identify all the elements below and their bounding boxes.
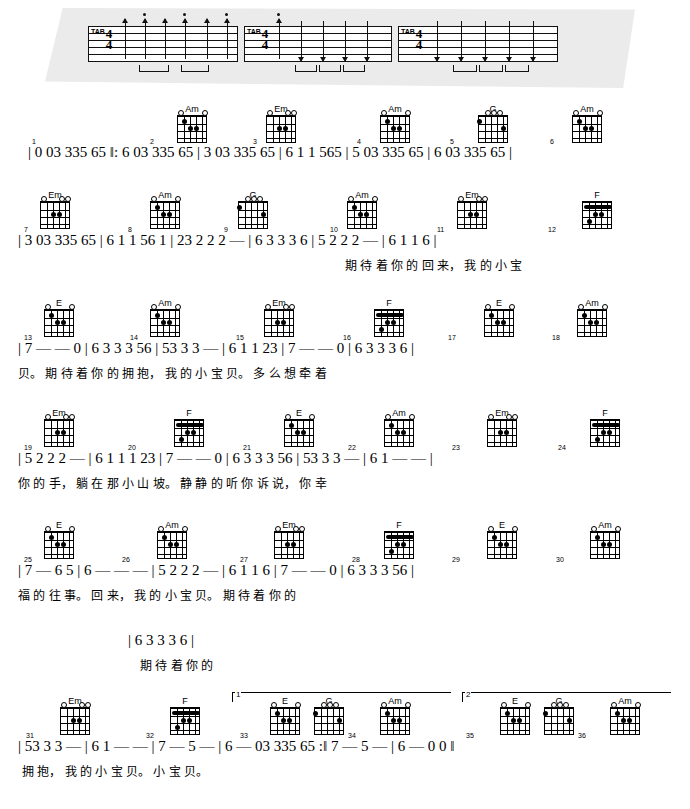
measure-number: 17 <box>448 334 456 341</box>
chord-diagram: F <box>580 190 614 229</box>
chord-diagram: Am <box>345 190 379 229</box>
chord-name: F <box>372 298 406 309</box>
sheet-music-page: TAB 44 TAB 44 TAB 44 <box>0 0 690 809</box>
measure-number: 24 <box>558 444 566 451</box>
lyrics-row: 福 的 往 事。 回 来， 我 的 小 宝 贝。 期 待 着 你 的 <box>18 586 296 603</box>
lyrics-row: 期 待 着 你 的 回 来， 我 的 小 宝 <box>345 256 522 273</box>
chord-name: F <box>382 520 416 531</box>
measure-number: 11 <box>437 226 444 233</box>
notation-row: | 7 — — 0 | 6 3 3 3 56 | 53 3 3 — | 6 1 … <box>18 340 414 357</box>
time-signature-2: 44 <box>259 28 271 50</box>
chord-diagram: F <box>382 520 416 559</box>
chord-diagram: F <box>588 408 622 447</box>
measure-number: 6 <box>550 138 554 145</box>
tab-label-3: TAB <box>401 28 413 60</box>
chord-diagram: F <box>168 696 202 735</box>
chord-diagram: Am <box>155 520 189 559</box>
chord-diagram: Am <box>175 104 209 143</box>
notation-row: | 5 2 2 2 — | 6 1 1 1 23 | 7 — — 0 | 6 3… <box>18 450 433 467</box>
staff-line-3: E Am Em F <box>0 298 690 390</box>
chord-diagram: E <box>42 520 76 559</box>
chord-diagram: Am <box>148 298 182 337</box>
chord-diagram: Am <box>148 190 182 229</box>
chord-diagram: F <box>172 408 206 447</box>
measure-number: 23 <box>452 444 460 451</box>
chord-diagram: Am <box>570 104 604 143</box>
chord-name: F <box>168 696 202 707</box>
chord-diagram: G <box>312 696 346 735</box>
chord-diagram: Em <box>58 696 92 735</box>
chord-diagram: E <box>42 298 76 337</box>
chord-diagram: Am <box>608 696 642 735</box>
lyrics-row: 贝。 期 待 着 你 的 拥 抱， 我 的 小 宝 贝。 多 么 想 牵 着 <box>18 364 327 381</box>
chord-diagram: E <box>282 408 316 447</box>
chord-diagram: Em <box>262 298 296 337</box>
time-signature-3: 44 <box>413 28 425 50</box>
chord-diagram: Am <box>382 408 416 447</box>
chord-name: F <box>172 408 206 419</box>
chord-diagram: Am <box>575 298 609 337</box>
measure-number: 12 <box>548 226 556 233</box>
chord-diagram: G <box>542 696 576 735</box>
chord-diagram: E <box>482 298 516 337</box>
chord-diagram: F <box>372 298 406 337</box>
lyrics-row: 你 的 手， 躺 在 那 小 山 坡。 静 静 的 听 你 诉 说， 你 幸 <box>18 474 327 491</box>
notation-row: | 53 3 3 — | 6 1 — — | 7 — 5 — | 6 — 03 … <box>18 738 454 755</box>
lyrics-row: 拥 抱， 我 的 小 宝 贝。 小 宝 贝。 <box>22 762 208 779</box>
staff-line-6: | 6 3 3 3 6 | 期 待 着 你 的 <box>0 624 690 674</box>
chord-diagram: Em <box>455 190 489 229</box>
measure-number: 36 <box>578 732 586 739</box>
lyrics-row: 期 待 着 你 的 <box>140 656 213 673</box>
ending-number-2: 2 <box>465 690 471 699</box>
chord-diagram: Am <box>378 696 412 735</box>
measure-number: 35 <box>466 732 474 739</box>
notation-row: | 7 — 6 5 | 6 — — — | 5 2 2 2 — | 6 1 1 … <box>18 562 414 579</box>
notation-row: | 3 03 335 65 | 6 1 1 56 1 | 23 2 2 2 — … <box>18 232 437 249</box>
tab-measure-2: TAB 44 <box>244 26 392 62</box>
tab-measure-3: TAB 44 <box>398 26 558 62</box>
staff-line-7: 1 2 Em F E <box>0 692 690 792</box>
staff-line-4: Em F E Am <box>0 408 690 500</box>
notation-row: | 6 3 3 3 6 | <box>128 632 194 649</box>
chord-diagram: Em <box>38 190 72 229</box>
chord-diagram: Em <box>272 520 306 559</box>
measure-number: 30 <box>556 556 564 563</box>
chord-diagram: Am <box>378 104 412 143</box>
chord-diagram: E <box>485 520 519 559</box>
chord-diagram: G <box>236 190 270 229</box>
chord-name: F <box>580 190 614 201</box>
tab-measure-1: TAB 44 <box>88 26 238 62</box>
staff-line-1: Am Em Am G <box>0 104 690 176</box>
chord-name: F <box>588 408 622 419</box>
staff-line-5: E Am Em F <box>0 520 690 612</box>
time-signature: 44 <box>103 28 115 50</box>
chord-diagram: E <box>498 696 532 735</box>
chord-diagram: Em <box>264 104 298 143</box>
chord-diagram: G <box>476 104 510 143</box>
chord-diagram: E <box>268 696 302 735</box>
measure-number: 18 <box>552 334 560 341</box>
chord-diagram: Am <box>588 520 622 559</box>
ending-number-1: 1 <box>235 690 241 699</box>
chord-diagram: Em <box>42 408 76 447</box>
notation-row: | 0 03 335 65 ‖: 6 03 335 65 | 3 03 335 … <box>28 144 512 161</box>
measure-number: 29 <box>452 556 460 563</box>
staff-line-2: Em Am G Am <box>0 190 690 280</box>
chord-diagram: Em <box>485 408 519 447</box>
tab-label-2: TAB <box>247 28 259 60</box>
tab-label: TAB <box>91 28 103 60</box>
